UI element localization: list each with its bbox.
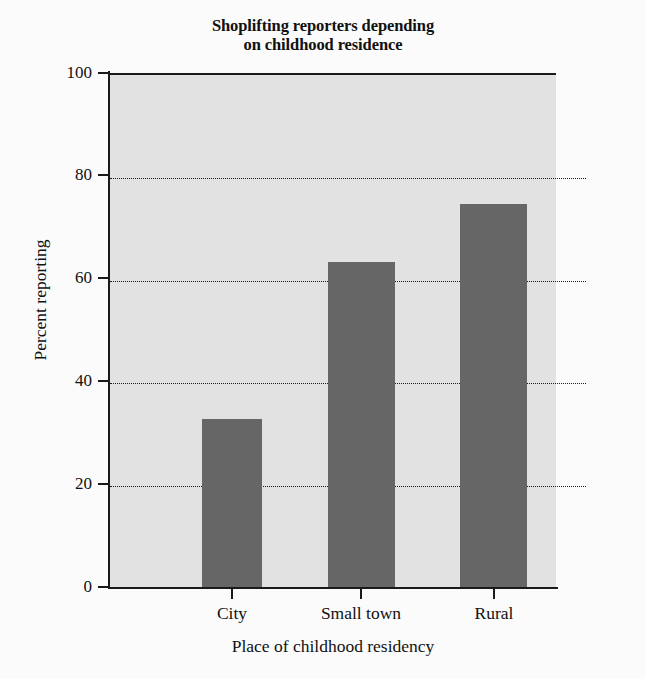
y-tick-80 <box>98 174 110 176</box>
y-tick-label-80: 80 <box>32 166 92 183</box>
x-tick-label-rural: Rural <box>475 603 514 623</box>
y-tick-label-20: 20 <box>32 475 92 492</box>
x-tick-label-small-town: Small town <box>321 603 401 623</box>
x-axis-title: Place of childhood residency <box>110 636 556 656</box>
bar-chart-figure: Shoplifting reporters depending on child… <box>0 0 646 679</box>
y-tick-20 <box>98 483 110 485</box>
x-axis-line <box>108 587 558 589</box>
bar-rural <box>460 204 527 590</box>
gridline-80 <box>110 178 586 179</box>
chart-title: Shoplifting reporters depending on child… <box>0 16 646 54</box>
y-tick-label-0: 0 <box>32 578 92 595</box>
y-tick-100 <box>98 72 110 74</box>
x-tick-city <box>231 589 233 599</box>
y-tick-0 <box>98 586 110 588</box>
chart-title-line-1: Shoplifting reporters depending <box>0 16 646 35</box>
chart-title-line-2: on childhood residence <box>0 35 646 54</box>
y-axis-line <box>108 71 110 589</box>
plot-area <box>110 73 556 589</box>
x-tick-rural <box>493 589 495 599</box>
bar-small-town <box>328 262 395 589</box>
x-tick-label-city: City <box>217 603 247 623</box>
x-tick-small-town <box>360 589 362 599</box>
y-tick-60 <box>98 277 110 279</box>
bar-city <box>202 419 262 589</box>
y-tick-label-100: 100 <box>32 64 92 81</box>
y-axis-title: Percent reporting <box>30 200 50 400</box>
y-tick-40 <box>98 380 110 382</box>
